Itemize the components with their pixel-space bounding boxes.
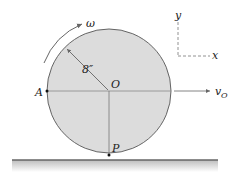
- point-p-label: P: [111, 142, 120, 155]
- ground: [12, 160, 218, 172]
- center-label: O: [111, 78, 120, 91]
- point-a-label: A: [34, 86, 43, 99]
- velocity-subscript: O: [221, 91, 228, 100]
- rolling-wheel-diagram: ω 8″ O A P v O y x: [0, 0, 236, 175]
- point-p-dot: [108, 154, 111, 157]
- axis-x-label: x: [212, 49, 219, 62]
- radius-label: 8″: [82, 63, 94, 76]
- omega-label: ω: [86, 17, 95, 30]
- point-a-dot: [46, 90, 49, 93]
- axis-y-label: y: [174, 9, 182, 22]
- coordinate-axes: [178, 22, 210, 56]
